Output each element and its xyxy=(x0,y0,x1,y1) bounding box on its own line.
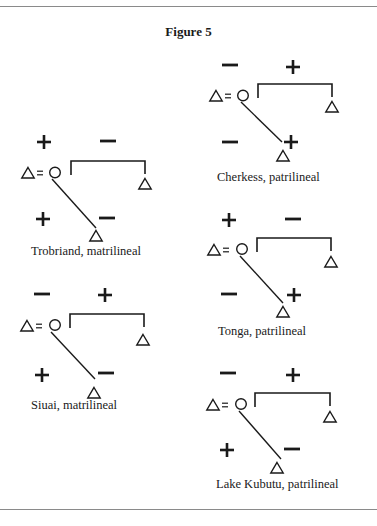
marriage-equals-icon xyxy=(37,171,43,175)
male-triangle-icon xyxy=(21,321,33,332)
descent-line xyxy=(52,179,96,228)
diagram-label-trobriand: Trobriand, matrilineal xyxy=(31,244,141,259)
male-triangle-icon xyxy=(88,388,100,399)
plus-sign-icon xyxy=(287,288,301,302)
female-circle-icon xyxy=(237,244,248,255)
plus-sign-icon xyxy=(35,368,49,382)
plus-sign-icon xyxy=(286,60,300,74)
male-triangle-icon xyxy=(139,179,151,190)
male-triangle-icon xyxy=(277,151,289,162)
plus-sign-icon xyxy=(222,213,236,227)
sibling-bracket xyxy=(255,393,330,407)
plus-sign-icon xyxy=(220,443,234,457)
descent-line xyxy=(239,411,281,459)
male-triangle-icon xyxy=(137,335,149,346)
diagram-label-tonga: Tonga, patrilineal xyxy=(218,324,306,339)
male-triangle-icon xyxy=(22,168,34,179)
diagram-siuai xyxy=(21,288,149,398)
kinship-diagrams xyxy=(0,0,377,526)
marriage-equals-icon xyxy=(223,248,229,252)
male-triangle-icon xyxy=(208,245,220,256)
diagram-label-lake-kubutu: Lake Kubutu, patrilineal xyxy=(216,477,339,492)
male-triangle-icon xyxy=(326,102,338,113)
male-triangle-icon xyxy=(207,400,219,411)
marriage-equals-icon xyxy=(222,403,228,407)
female-circle-icon xyxy=(50,320,61,331)
male-triangle-icon xyxy=(277,307,289,318)
male-triangle-icon xyxy=(324,412,336,423)
male-triangle-icon xyxy=(210,91,222,102)
diagram-label-siuai: Siuai, matrilineal xyxy=(31,398,117,413)
descent-line xyxy=(51,332,95,379)
female-circle-icon xyxy=(238,90,249,101)
sibling-bracket xyxy=(71,161,145,175)
plus-sign-icon xyxy=(36,212,50,226)
sibling-bracket xyxy=(257,238,331,252)
plus-sign-icon xyxy=(284,135,298,149)
sibling-bracket xyxy=(258,84,332,98)
marriage-equals-icon xyxy=(225,94,231,98)
male-triangle-icon xyxy=(271,463,283,474)
bottom-rule xyxy=(0,509,377,510)
diagram-tonga xyxy=(208,213,337,317)
descent-line xyxy=(241,102,282,142)
diagram-cherkess xyxy=(210,60,338,161)
diagram-lake-kubutu xyxy=(207,368,336,473)
sibling-bracket xyxy=(70,314,144,328)
plus-sign-icon xyxy=(98,288,112,302)
female-circle-icon xyxy=(50,167,61,178)
female-circle-icon xyxy=(236,399,247,410)
plus-sign-icon xyxy=(286,368,300,382)
diagram-label-cherkess: Cherkess, patrilineal xyxy=(217,170,320,185)
descent-line xyxy=(240,256,283,303)
marriage-equals-icon xyxy=(36,324,42,328)
plus-sign-icon xyxy=(37,135,51,149)
diagram-trobriand xyxy=(22,135,151,241)
male-triangle-icon xyxy=(90,231,102,242)
male-triangle-icon xyxy=(325,257,337,268)
